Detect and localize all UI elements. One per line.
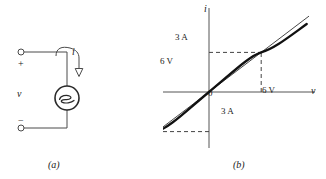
- v-axis-label: v: [311, 86, 315, 96]
- nonlinear-resistor-icon: [55, 86, 79, 110]
- origin-label: 0: [208, 89, 213, 98]
- i-axis-label: i: [204, 4, 207, 14]
- caption-b: (b): [233, 160, 245, 170]
- right-voltage-label: 6 V: [262, 86, 275, 95]
- current-label: i: [72, 47, 75, 57]
- terminal-minus-label: −: [18, 116, 24, 126]
- circuit-drawing: [0, 0, 163, 179]
- upper-current-label: 3 A: [175, 33, 188, 42]
- left-voltage-label: 6 V: [160, 57, 173, 66]
- iv-characteristic-plot: [163, 0, 326, 179]
- caption-a: (a): [48, 160, 60, 170]
- voltage-label: v: [17, 89, 21, 99]
- panel-b-graph: [163, 0, 326, 179]
- positive-terminal-icon: [18, 49, 24, 55]
- lower-current-label: 3 A: [221, 107, 234, 116]
- current-arrow-head-icon: [75, 69, 83, 77]
- figure-container: + − v i (a) i v 0 3 A 3 A: [0, 0, 326, 179]
- panel-a-circuit: + − v i (a): [0, 0, 163, 179]
- terminal-plus-label: +: [18, 59, 24, 69]
